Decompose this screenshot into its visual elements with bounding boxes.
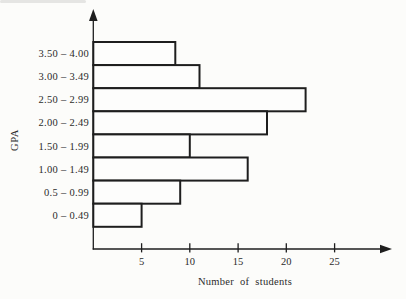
histogram-bar (93, 181, 180, 204)
x-tick-label: 5 (139, 256, 144, 268)
y-category-label: 0 – 0.49 (0, 209, 89, 222)
gpa-histogram-figure: 3.50 – 4.003.00 – 3.492.50 – 2.992.00 – … (0, 0, 406, 299)
y-category-label: 2.00 – 2.49 (0, 116, 89, 129)
y-category-label: 1.00 – 1.49 (0, 163, 89, 176)
x-tick-label: 15 (233, 256, 244, 268)
histogram-bar (93, 42, 175, 65)
histogram-bar (93, 134, 190, 157)
x-tick-label: 10 (185, 256, 196, 268)
y-category-label: 3.50 – 4.00 (0, 47, 89, 60)
x-axis-arrowhead-icon (380, 245, 392, 254)
y-category-label: 2.50 – 2.99 (0, 93, 89, 106)
histogram-bar (93, 65, 199, 88)
x-tick-label: 20 (281, 256, 292, 268)
y-axis-title: GPA (9, 129, 20, 151)
y-axis-arrowhead-icon (89, 9, 98, 21)
histogram-bar (93, 111, 267, 134)
y-category-label: 0.5 – 0.99 (0, 186, 89, 199)
histogram-bar (93, 158, 247, 181)
x-axis-title: Number of students (198, 276, 292, 287)
y-category-label: 3.00 – 3.49 (0, 70, 89, 83)
histogram-bar (93, 88, 305, 111)
x-tick-label: 25 (329, 256, 340, 268)
histogram-bar (93, 204, 141, 227)
